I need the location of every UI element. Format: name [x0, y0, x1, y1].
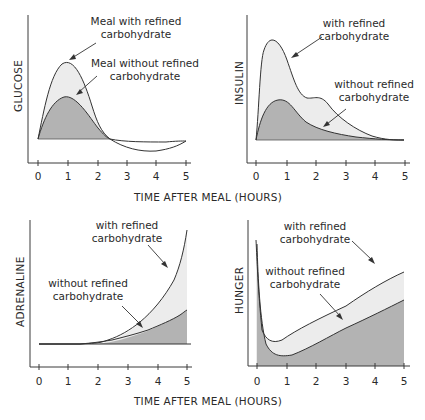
hunger-with-arrowhead-icon [368, 257, 375, 264]
hunger-annot-without-line2: carbohydrate [270, 278, 340, 290]
insulin-tick-5: 5 [402, 170, 409, 182]
insulin-tick-0: 0 [253, 170, 260, 182]
adrenaline-tick-1: 1 [65, 375, 72, 387]
glucose-y-label: GLUCOSE [12, 60, 24, 112]
hunger-panel: 0 1 2 3 4 5 HUNGER with refined carbohyd… [233, 220, 410, 387]
adrenaline-annot-without-line1: without refined [48, 277, 128, 289]
glucose-tick-2: 2 [95, 170, 102, 182]
glucose-annot-without-line1: Meal without refined [91, 57, 199, 69]
adrenaline-with-arrow [148, 245, 165, 264]
glucose-tick-5: 5 [183, 170, 190, 182]
insulin-tick-1: 1 [284, 170, 291, 182]
adrenaline-tick-0: 0 [36, 375, 43, 387]
hunger-tick-3: 3 [343, 375, 350, 387]
glucose-tick-3: 3 [124, 170, 131, 182]
glucose-tick-0: 0 [35, 170, 42, 182]
top-x-axis-label: TIME AFTER MEAL (HOURS) [133, 191, 282, 203]
hunger-tick-2: 2 [313, 375, 320, 387]
adrenaline-without-arrow [122, 306, 140, 324]
hunger-without-arrow [320, 294, 340, 316]
hunger-tick-5: 5 [401, 375, 408, 387]
glucose-annot-with-line2: carbohydrate [101, 28, 171, 40]
adrenaline-tick-4: 4 [155, 375, 162, 387]
glucose-with-arrow [72, 43, 96, 58]
hunger-annot-with-line2: carbohydrate [280, 233, 350, 245]
adrenaline-with-arrowhead-icon [161, 261, 168, 268]
adrenaline-annot-without-line2: carbohydrate [53, 290, 123, 302]
insulin-tick-4: 4 [372, 170, 379, 182]
hunger-annot-with-line1: with refined [284, 220, 347, 232]
insulin-tick-2: 2 [313, 170, 320, 182]
insulin-annot-without-line1: without refined [334, 78, 414, 90]
adrenaline-annot-with-line2: carbohydrate [92, 232, 162, 244]
glucose-tick-4: 4 [153, 170, 160, 182]
insulin-annot-with-line2: carbohydrate [319, 30, 389, 42]
hunger-y-label: HUNGER [233, 267, 245, 314]
adrenaline-tick-3: 3 [125, 375, 132, 387]
glucose-panel: 0 1 2 3 4 5 GLUCOSE Meal with refined ca… [12, 15, 199, 182]
glucose-annot-with-line1: Meal with refined [91, 15, 182, 27]
hunger-with-arrow [352, 241, 372, 260]
insulin-tick-3: 3 [343, 170, 350, 182]
hunger-annot-without-line1: without refined [265, 265, 345, 277]
insulin-annot-without-line2: carbohydrate [339, 91, 409, 103]
chart-figure: 0 1 2 3 4 5 GLUCOSE Meal with refined ca… [0, 0, 425, 420]
glucose-annot-without-line2: carbohydrate [110, 70, 180, 82]
insulin-panel: 0 1 2 3 4 5 INSULIN with refined carbohy… [233, 15, 414, 182]
adrenaline-tick-5: 5 [184, 375, 191, 387]
adrenaline-panel: 0 1 2 3 4 5 ADRENALINE with refined carb… [14, 219, 192, 387]
hunger-tick-0: 0 [254, 375, 261, 387]
hunger-tick-1: 1 [284, 375, 291, 387]
glucose-tick-1: 1 [65, 170, 72, 182]
insulin-y-label: INSULIN [233, 61, 245, 105]
adrenaline-y-label: ADRENALINE [14, 256, 26, 327]
adrenaline-tick-2: 2 [95, 375, 102, 387]
bottom-x-axis-label: TIME AFTER MEAL (HOURS) [133, 395, 282, 407]
hunger-tick-4: 4 [372, 375, 379, 387]
insulin-with-arrow [295, 37, 322, 55]
adrenaline-annot-with-line1: with refined [96, 219, 159, 231]
insulin-annot-with-line1: with refined [323, 17, 386, 29]
glucose-with-arrowhead-icon [69, 54, 76, 60]
